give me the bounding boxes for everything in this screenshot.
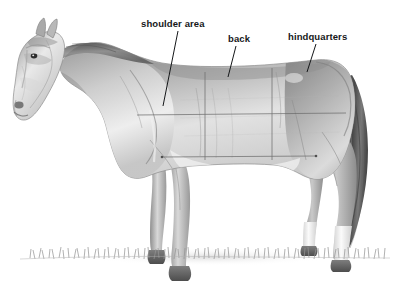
horse-anatomy-illustration bbox=[0, 0, 397, 294]
head bbox=[13, 18, 65, 120]
illustration-canvas: shoulder area back hindquarters bbox=[0, 0, 397, 294]
eye bbox=[31, 54, 38, 59]
label-hindquarters: hindquarters bbox=[288, 31, 347, 42]
nostril bbox=[14, 102, 23, 109]
label-shoulder-area: shoulder area bbox=[141, 18, 205, 29]
label-back: back bbox=[228, 33, 250, 44]
